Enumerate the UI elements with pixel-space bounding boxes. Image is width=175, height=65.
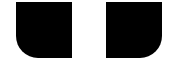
- left-rounded-block-icon: [16, 2, 72, 58]
- graphic-canvas: [0, 0, 175, 65]
- right-rounded-block-icon: [106, 2, 162, 58]
